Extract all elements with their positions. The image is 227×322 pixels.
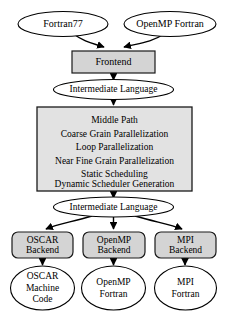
middle-path-line-5: Static Scheduling (81, 169, 148, 179)
fortran77-label: Fortran77 (43, 18, 82, 29)
oscar-machine-code-line-2: Machine (26, 283, 59, 293)
mpi-backend-line-1: MPI (177, 235, 194, 245)
oscar-machine-code-line-1: OSCAR (27, 271, 59, 281)
mpi-backend-line-2: Backend (169, 245, 202, 255)
node-intermediate-language-upper: Intermediate Language (54, 80, 174, 100)
node-oscar-machine-code: OSCAR Machine Code (11, 266, 75, 310)
mpi-fortran-output-line-1: MPI (177, 277, 194, 287)
openmp-backend-line-1: OpenMP (97, 235, 131, 245)
frontend-label: Frontend (95, 56, 131, 67)
diagram-canvas: Fortran77 OpenMP Fortran Frontend Interm… (0, 0, 227, 322)
middle-path-line-4: Near Fine Grain Parallelization (55, 156, 174, 166)
intermediate-upper-label: Intermediate Language (70, 84, 158, 94)
node-mpi-fortran-output: MPI Fortran (155, 266, 217, 310)
openmp-fortran-output-line-1: OpenMP (96, 277, 130, 287)
middle-path-line-6: Dynamic Scheduler Generation (55, 179, 175, 189)
middle-path-line-2: Coarse Grain Parallelization (61, 129, 169, 139)
node-middle-path: Middle Path Coarse Grain Parallelization… (37, 107, 192, 191)
node-openmp-fortran-output: OpenMP Fortran (82, 266, 146, 310)
node-fortran77: Fortran77 (18, 12, 108, 37)
oscar-backend-line-1: OSCAR (27, 235, 59, 245)
oscar-machine-code-line-3: Code (32, 294, 52, 304)
edge-intermediate-lower-to-mpi-backend (135, 216, 182, 229)
edge-intermediate-lower-to-oscar-backend (46, 216, 92, 229)
middle-path-line-1: Middle Path (91, 115, 138, 125)
oscar-backend-line-2: Backend (26, 245, 59, 255)
openmp-fortran-output-line-2: Fortran (100, 289, 128, 299)
openmp-fortran-label: OpenMP Fortran (136, 18, 204, 29)
openmp-backend-line-2: Backend (97, 245, 130, 255)
intermediate-lower-label: Intermediate Language (70, 202, 158, 212)
node-oscar-backend: OSCAR Backend (12, 232, 73, 258)
node-frontend: Frontend (72, 51, 155, 73)
mpi-fortran-output-line-2: Fortran (172, 289, 200, 299)
node-openmp-backend: OpenMP Backend (83, 232, 145, 258)
node-intermediate-language-lower: Intermediate Language (54, 197, 174, 217)
compiler-flow-diagram: Fortran77 OpenMP Fortran Frontend Interm… (0, 0, 227, 322)
middle-path-line-3: Loop Parallelization (76, 142, 154, 152)
node-openmp-fortran: OpenMP Fortran (124, 12, 216, 37)
node-mpi-backend: MPI Backend (155, 232, 216, 258)
